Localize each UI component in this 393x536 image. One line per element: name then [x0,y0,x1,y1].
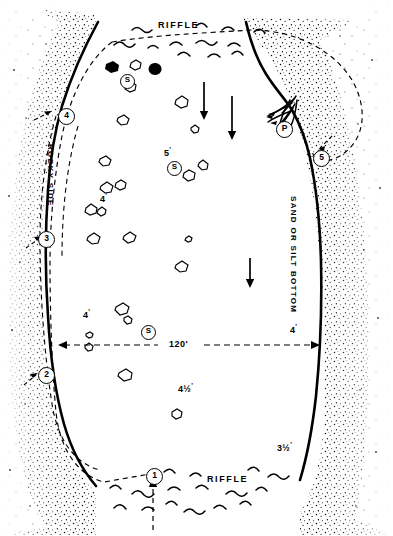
depth-label-3-5ft: 3½' [277,441,292,453]
marker-s-middle[interactable]: S [167,161,182,176]
dimension-label-120: 120' [166,339,191,349]
marker-2[interactable]: 2 [38,367,55,384]
approach-arrowheads-icon [30,111,325,378]
wave-icon-group-bottom [110,467,289,514]
arrow-down-icon-group [200,82,254,288]
rocky-side-label: ROCKY SIDE [46,144,55,207]
sand-or-silt-bottom-label: SAND OR SILT BOTTOM [289,196,298,313]
depth-label-4ft-left: 4' [100,192,107,204]
marker-p-brush-pile[interactable]: P [276,121,293,138]
marker-4[interactable]: 4 [58,108,75,125]
marker-3[interactable]: 3 [38,231,55,248]
depth-label-5ft: 5' [164,146,171,158]
rock-icon-group [85,60,208,419]
marker-s-top[interactable]: S [120,74,135,89]
depth-label-4ft-lower-left: 4' [83,308,90,320]
diagram-canvas [0,0,393,536]
stipple-bank-icon-right [244,0,393,536]
riffle-label-bottom: RIFFLE [207,474,248,484]
marker-s-lower[interactable]: S [141,325,156,340]
marker-1[interactable]: 1 [146,468,163,485]
marker-5[interactable]: 5 [313,150,330,167]
depth-label-4ft-right: 4' [290,323,297,335]
depth-label-4-5ft: 4½' [178,382,193,394]
stream-pool-diagram: RIFFLE RIFFLE ROCKY SIDE SAND OR SILT BO… [0,0,393,536]
riffle-label-top: RIFFLE [158,20,199,30]
